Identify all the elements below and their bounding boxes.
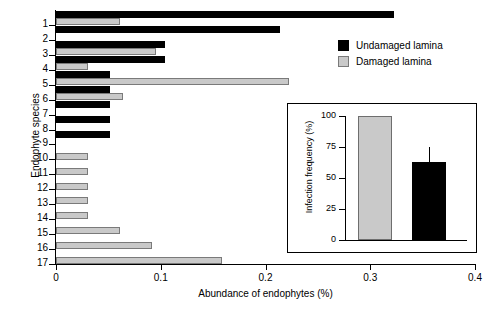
y-tick-label: 1 xyxy=(24,19,48,29)
y-tick xyxy=(49,100,55,101)
y-tick xyxy=(49,25,55,26)
inset-y-tick-label: 0 xyxy=(308,235,336,244)
y-tick xyxy=(49,264,55,265)
bar-damaged xyxy=(56,18,120,25)
bar-undamaged xyxy=(56,11,394,18)
x-tick-label: 0.3 xyxy=(350,272,390,283)
bar-damaged xyxy=(56,78,289,85)
y-tick-label: 12 xyxy=(24,183,48,193)
bar-undamaged xyxy=(56,56,165,63)
x-tick-label: 0 xyxy=(36,272,76,283)
bar-undamaged xyxy=(56,101,110,108)
y-tick-label: 6 xyxy=(24,94,48,104)
inset-bar-undamaged xyxy=(412,162,446,240)
bar-undamaged xyxy=(56,86,110,93)
y-tick xyxy=(49,115,55,116)
inset-y-tick xyxy=(339,116,345,117)
y-tick-label: 9 xyxy=(24,138,48,148)
y-tick xyxy=(49,219,55,220)
y-tick-label: 3 xyxy=(24,49,48,59)
inset-y-tick xyxy=(339,147,345,148)
legend-swatch-gray xyxy=(338,56,349,67)
bar-damaged xyxy=(56,197,88,204)
y-tick-label: 4 xyxy=(24,64,48,74)
x-tick xyxy=(161,264,162,270)
inset-y-tick-label: 25 xyxy=(308,204,336,213)
y-tick xyxy=(49,174,55,175)
y-tick xyxy=(49,55,55,56)
y-tick-label: 17 xyxy=(24,258,48,268)
inset-y-tick xyxy=(339,178,345,179)
bar-damaged xyxy=(56,48,156,55)
inset-y-tick-label: 75 xyxy=(308,142,336,151)
legend-label: Damaged lamina xyxy=(356,56,432,67)
bar-damaged xyxy=(56,257,222,264)
bar-damaged xyxy=(56,153,88,160)
y-tick-label: 11 xyxy=(24,168,48,178)
x-tick-label: 0.4 xyxy=(455,272,495,283)
bar-damaged xyxy=(56,227,120,234)
inset-bar-damaged xyxy=(358,116,392,240)
x-tick-label: 0.2 xyxy=(246,272,286,283)
x-tick xyxy=(370,264,371,270)
inset-y-tick xyxy=(339,209,345,210)
bar-damaged xyxy=(56,183,88,190)
x-tick-label: 0.1 xyxy=(141,272,181,283)
inset-chart: Infection frequency (%) 0255075100 xyxy=(287,103,477,253)
y-tick xyxy=(49,40,55,41)
x-tick xyxy=(56,264,57,270)
bar-undamaged xyxy=(56,116,110,123)
inset-y-tick-label: 100 xyxy=(308,111,336,120)
y-tick xyxy=(49,249,55,250)
bar-damaged xyxy=(56,212,88,219)
y-tick-label: 15 xyxy=(24,228,48,238)
bar-damaged xyxy=(56,168,88,175)
inset-y-tick xyxy=(339,240,345,241)
bar-damaged xyxy=(56,63,88,70)
inset-y-tick-label: 50 xyxy=(308,173,336,182)
y-tick-label: 10 xyxy=(24,153,48,163)
y-tick-label: 16 xyxy=(24,243,48,253)
bar-undamaged xyxy=(56,26,280,33)
legend-item: Undamaged lamina xyxy=(338,40,443,51)
y-tick-label: 14 xyxy=(24,213,48,223)
y-tick xyxy=(49,85,55,86)
inset-x-axis-line xyxy=(345,240,467,241)
inset-plot-area xyxy=(346,116,466,240)
bar-undamaged xyxy=(56,41,165,48)
y-tick xyxy=(49,159,55,160)
y-tick-label: 13 xyxy=(24,198,48,208)
y-tick xyxy=(49,70,55,71)
y-tick-label: 7 xyxy=(24,109,48,119)
y-tick xyxy=(49,204,55,205)
y-tick-label: 2 xyxy=(24,34,48,44)
legend-item: Damaged lamina xyxy=(338,56,443,67)
x-tick xyxy=(266,264,267,270)
x-tick xyxy=(475,264,476,270)
x-axis-title: Abundance of endophytes (%) xyxy=(56,288,475,299)
bar-undamaged xyxy=(56,71,110,78)
bar-damaged xyxy=(56,93,123,100)
legend-swatch-black xyxy=(338,40,349,51)
inset-error-bar xyxy=(429,147,430,162)
bar-undamaged xyxy=(56,131,110,138)
legend-label: Undamaged lamina xyxy=(356,40,443,51)
figure-endophyte-abundance: Endophyte species 1234567891011121314151… xyxy=(0,0,504,312)
y-tick-label: 5 xyxy=(24,79,48,89)
bar-damaged xyxy=(56,242,152,249)
y-tick xyxy=(49,234,55,235)
chart-legend: Undamaged laminaDamaged lamina xyxy=(338,40,443,72)
y-tick xyxy=(49,189,55,190)
y-tick xyxy=(49,130,55,131)
y-tick-label: 8 xyxy=(24,124,48,134)
y-tick xyxy=(49,144,55,145)
